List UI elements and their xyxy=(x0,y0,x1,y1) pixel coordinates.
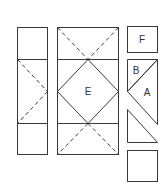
piece-right-triangle xyxy=(128,110,158,143)
label-b: B xyxy=(133,65,140,76)
piece-bottom-square xyxy=(128,151,158,182)
label-f: F xyxy=(139,34,145,45)
left-column xyxy=(18,28,48,155)
label-a: A xyxy=(144,87,151,98)
quilt-diagram: E F B A xyxy=(0,0,168,191)
center-column: E xyxy=(58,28,119,155)
label-e: E xyxy=(85,86,92,97)
pieces-column: F B A xyxy=(128,27,158,182)
